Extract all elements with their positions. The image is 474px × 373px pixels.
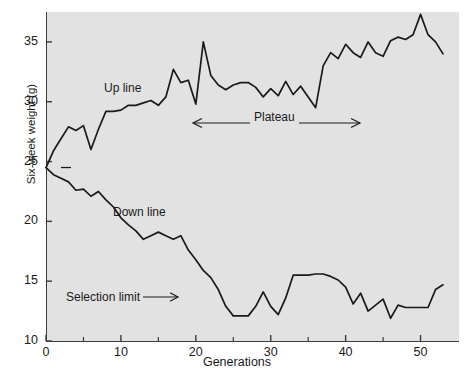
- y-tick-label: 15: [10, 273, 38, 287]
- y-tick-label: 35: [10, 34, 38, 48]
- x-axis-title: Generations: [0, 355, 474, 369]
- up-line-annotation: Up line: [104, 81, 141, 95]
- y-axis-title: Six-week weight (g): [25, 59, 37, 209]
- down-line-annotation: Down line: [113, 205, 166, 219]
- plateau-annotation: Plateau: [250, 110, 299, 124]
- chart-svg-layer: [0, 0, 474, 373]
- y-tick-label: 20: [10, 213, 38, 227]
- selection-limit-annotation: Selection limit: [66, 290, 140, 304]
- x-axis-ticks: [46, 335, 421, 341]
- y-axis-ticks: [46, 42, 52, 341]
- selection-limit-arrow: [143, 293, 178, 302]
- chart-figure: 101520253035 01020304050 Six-week weight…: [0, 0, 474, 373]
